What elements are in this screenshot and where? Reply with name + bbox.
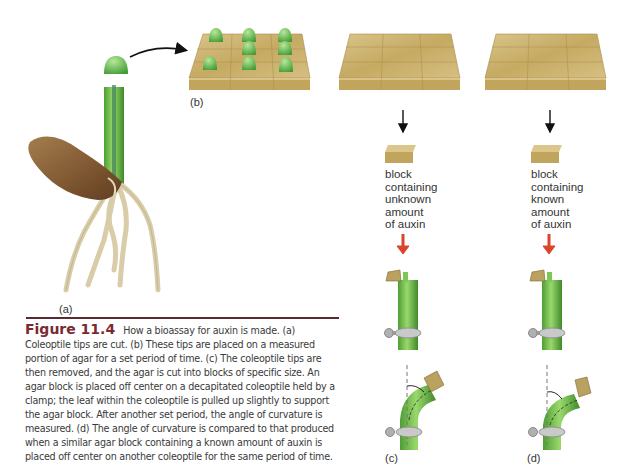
coleoptile-curved-c <box>386 365 445 450</box>
caption-text: How a bioassay for auxin is made. (a) Co… <box>25 325 335 462</box>
panel-label-c: (c) <box>385 452 398 464</box>
block-label-line: unknown <box>385 193 437 206</box>
panel-label-b: (b) <box>190 96 203 108</box>
figure-number: Figure 11.4 <box>25 321 115 337</box>
block-label-line: amount <box>385 206 437 219</box>
agar-slab-c <box>339 34 460 90</box>
roots <box>66 184 158 290</box>
block-label-line: block <box>531 168 583 181</box>
block-label-line: of auxin <box>531 218 583 231</box>
agar-slab-with-tips <box>189 28 310 90</box>
caption-divider <box>26 317 339 319</box>
figure-caption: Figure 11.4How a bioassay for auxin is m… <box>25 322 341 464</box>
block-label-line: block <box>385 168 437 181</box>
block-label-unknown: block containing unknown amount of auxin <box>385 168 437 231</box>
panel-label-a: (a) <box>59 303 72 315</box>
block-label-line: amount <box>531 206 583 219</box>
coleoptile-tip-icon <box>104 56 128 74</box>
figure-page: (a) (b) (c) (d) block containing unknown… <box>0 0 637 468</box>
block-label-line: of auxin <box>385 218 437 231</box>
block-label-known: block containing known amount of auxin <box>531 168 583 231</box>
panel-label-d: (d) <box>527 452 540 464</box>
block-label-line: known <box>531 193 583 206</box>
block-label-line: containing <box>531 181 583 194</box>
coleoptile-upright-c <box>385 270 422 350</box>
small-agar-block-d <box>531 145 562 163</box>
small-agar-block-c <box>385 145 416 163</box>
agar-slab-d <box>485 34 606 90</box>
block-label-line: containing <box>385 181 437 194</box>
coleoptile-upright-d <box>529 270 566 350</box>
curved-arrow-icon <box>130 48 185 57</box>
coleoptile-curved-d <box>529 365 592 450</box>
